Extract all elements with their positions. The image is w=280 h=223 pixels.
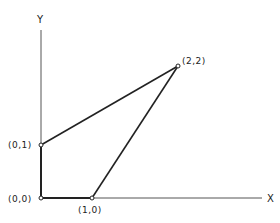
point-label-01: (0,1): [8, 140, 32, 150]
diagram-canvas: Y X (0,0) (0,1) (1,0) (2,2): [0, 0, 280, 223]
edge-01-22: [41, 66, 178, 145]
y-axis-label: Y: [36, 14, 44, 25]
point-label-22: (2,2): [182, 56, 206, 66]
point-label-10: (1,0): [78, 205, 102, 215]
edge-22-10: [92, 66, 178, 198]
point-marker-00: [39, 196, 43, 200]
point-marker-22: [176, 64, 180, 68]
point-marker-01: [39, 143, 43, 147]
x-axis-label: X: [267, 193, 274, 204]
point-label-00: (0,0): [8, 194, 32, 204]
point-marker-10: [90, 196, 94, 200]
